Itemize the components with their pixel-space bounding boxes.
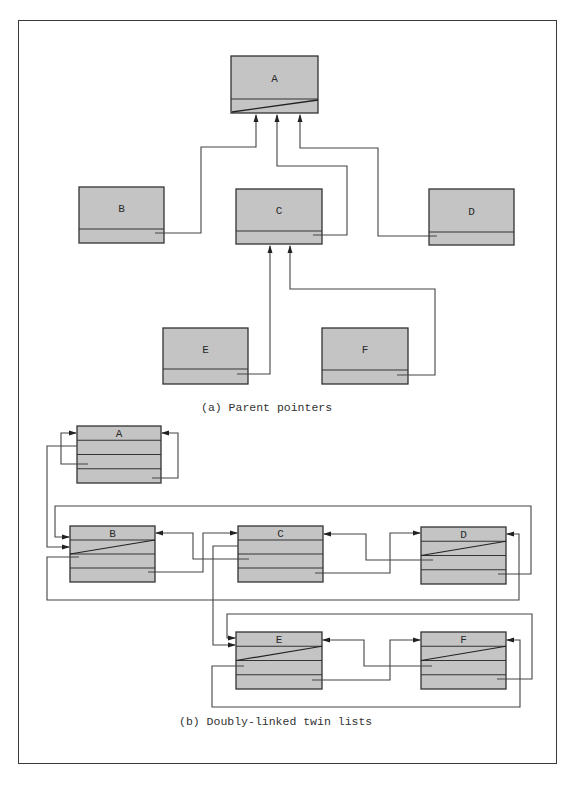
twin-node-b: B bbox=[70, 526, 155, 582]
node-label: B bbox=[109, 528, 116, 540]
f-prev-to-e bbox=[323, 640, 432, 666]
c-next-to-d bbox=[315, 533, 420, 573]
node-c: C bbox=[236, 189, 322, 244]
node-label: C bbox=[277, 528, 284, 540]
node-e: E bbox=[163, 328, 248, 384]
node-label: E bbox=[276, 634, 283, 646]
diagram-canvas: ABCDEF ABCDEF bbox=[0, 0, 575, 786]
node-label: F bbox=[362, 344, 369, 356]
node-label: A bbox=[271, 73, 278, 85]
caption-parent-pointers: (a) Parent pointers bbox=[201, 401, 332, 414]
node-b: B bbox=[79, 187, 164, 243]
node-label: E bbox=[202, 344, 209, 356]
c-child-to-e bbox=[213, 546, 238, 645]
e-next-to-f bbox=[312, 640, 420, 680]
node-label: F bbox=[460, 634, 467, 646]
twin-node-c: C bbox=[238, 526, 323, 582]
node-label: A bbox=[116, 428, 123, 440]
node-a: A bbox=[231, 56, 318, 113]
node-f: F bbox=[322, 328, 408, 384]
d-prev-to-c bbox=[324, 534, 433, 560]
node-label: B bbox=[118, 203, 125, 215]
node-d: D bbox=[429, 189, 514, 245]
node-label: D bbox=[460, 529, 467, 541]
parent-pointers-diagram: ABCDEF bbox=[79, 56, 514, 384]
twin-node-e: E bbox=[236, 632, 322, 689]
twin-node-d: D bbox=[421, 527, 506, 584]
twin-node-a: A bbox=[77, 426, 161, 483]
twin-lists-diagram: ABCDEF bbox=[47, 426, 532, 707]
node-label: C bbox=[276, 205, 283, 217]
twin-node-f: F bbox=[421, 632, 506, 689]
caption-twin-lists: (b) Doubly-linked twin lists bbox=[179, 715, 372, 728]
node-label: D bbox=[468, 206, 475, 218]
